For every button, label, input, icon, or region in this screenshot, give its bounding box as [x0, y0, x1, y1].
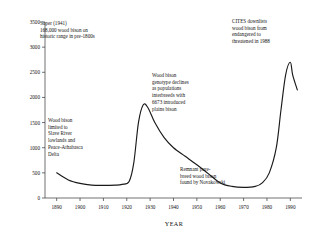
y-tick-label: 3500 — [30, 19, 41, 25]
x-tick-label: 1910 — [98, 204, 109, 210]
x-tick-label: 1980 — [262, 204, 273, 210]
x-tick-label: 1970 — [238, 204, 249, 210]
y-tick-label: 0 — [37, 195, 40, 201]
annotation-genotype-decline: Wood bison genotype declines as populati… — [152, 72, 214, 112]
y-tick-label: 500 — [32, 170, 40, 176]
x-tick-label: 1890 — [51, 204, 62, 210]
chart-container: 0500100015002000250030003500 18901900191… — [0, 0, 312, 239]
x-tick-label: 1960 — [215, 204, 226, 210]
y-tick-label: 2000 — [30, 94, 41, 100]
x-tick-label: 1990 — [285, 204, 296, 210]
y-tick-label: 3000 — [30, 44, 41, 50]
annotation-cites: CITES downlists wood bison from endanger… — [232, 18, 302, 45]
x-tick-label: 1930 — [145, 204, 156, 210]
y-tick-label: 1000 — [30, 145, 41, 151]
y-tick-label: 2500 — [30, 69, 41, 75]
x-tick-label: 1920 — [122, 204, 133, 210]
y-axis-ticks: 0500100015002000250030003500 — [30, 19, 45, 201]
y-tick-label: 1500 — [30, 120, 41, 126]
x-axis-title: YEAR — [165, 220, 184, 227]
x-tick-label: 1940 — [168, 204, 179, 210]
x-axis-ticks: 1890190019101920193019401950196019701980… — [51, 198, 295, 210]
annotation-soper: Soper (1941) 168,000 wood bison on histo… — [40, 20, 138, 40]
x-tick-label: 1900 — [75, 204, 86, 210]
annotation-novakowski: Remnant pure- breed wood bison found by … — [180, 166, 256, 186]
annotation-range-limit: Wood bison limited to Slave River lowlan… — [48, 117, 108, 157]
x-tick-label: 1950 — [192, 204, 203, 210]
